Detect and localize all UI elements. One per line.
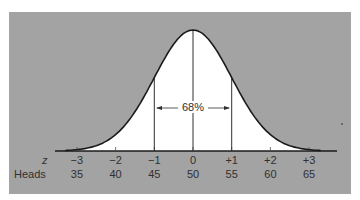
heads-tick-label: 50: [187, 168, 199, 180]
heads-row-label: Heads: [14, 168, 46, 180]
z-tick-label: +1: [225, 154, 238, 166]
heads-tick-label: 45: [148, 168, 160, 180]
z-tick-label: −1: [148, 154, 161, 166]
speck-mark: [341, 123, 343, 125]
heads-tick-label: 60: [264, 168, 276, 180]
z-tick-label: +2: [264, 154, 277, 166]
z-tick-label: 0: [190, 154, 196, 166]
z-tick-label: +3: [303, 154, 316, 166]
z-tick-label: −2: [109, 154, 122, 166]
heads-tick-label: 35: [71, 168, 83, 180]
z-tick-label: −3: [71, 154, 84, 166]
heads-tick-label: 65: [303, 168, 315, 180]
z-row-label: z: [42, 154, 48, 166]
pct-annotation: 68%: [181, 101, 205, 113]
heads-tick-label: 40: [109, 168, 121, 180]
heads-tick-label: 55: [226, 168, 238, 180]
